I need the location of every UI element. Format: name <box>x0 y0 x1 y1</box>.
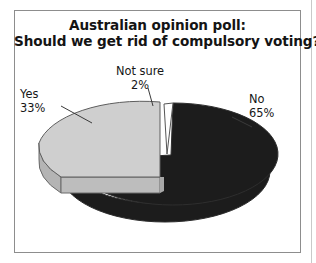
data-label-not-sure-name: Not sure <box>108 65 172 79</box>
pie-chart-svg <box>14 10 301 253</box>
data-label-no-name: No <box>249 93 307 107</box>
pie-chart <box>14 10 301 253</box>
data-label-yes-name: Yes <box>20 88 82 102</box>
data-label-yes-value: 33% <box>20 102 82 116</box>
data-label-no: No 65% <box>246 93 307 120</box>
data-label-yes: Yes 33% <box>16 88 82 115</box>
data-label-no-value: 65% <box>249 107 307 121</box>
data-label-not-sure: Not sure 2% <box>108 65 172 92</box>
data-label-not-sure-value: 2% <box>108 79 172 93</box>
